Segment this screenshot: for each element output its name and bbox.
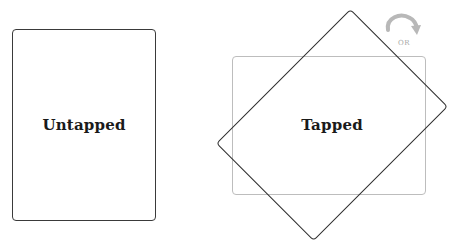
untapped-label: Untapped xyxy=(42,116,125,134)
curved-arrow-clockwise-icon xyxy=(380,8,424,40)
or-label: OR xyxy=(398,39,410,47)
tapped-label: Tapped xyxy=(301,116,363,134)
